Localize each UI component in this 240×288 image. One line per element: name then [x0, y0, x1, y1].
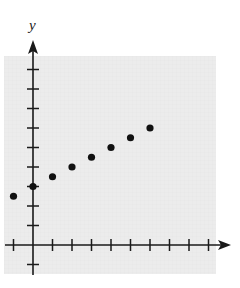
- data-point: [29, 183, 36, 190]
- data-point: [88, 154, 95, 161]
- data-point: [10, 193, 17, 200]
- data-point: [127, 134, 134, 141]
- data-point: [107, 144, 114, 151]
- y-axis-label: y: [27, 17, 36, 33]
- data-point: [68, 163, 75, 170]
- data-point: [49, 173, 56, 180]
- data-point: [146, 124, 153, 131]
- scatter-chart: y: [0, 0, 240, 288]
